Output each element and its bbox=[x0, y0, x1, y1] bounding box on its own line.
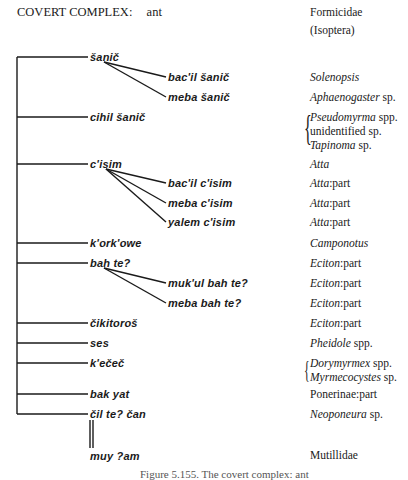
gloss-bah-te: Eciton:part bbox=[310, 258, 361, 270]
term-meba-sanic: meba šanič bbox=[168, 92, 230, 103]
term-meba-cisim: meba c'isim bbox=[168, 198, 233, 209]
gloss-cihil-3: Tapinoma sp. bbox=[310, 140, 372, 152]
term-bah-te: bah te? bbox=[90, 258, 131, 269]
gloss-muy-am: Mutillidae bbox=[310, 450, 358, 462]
gloss-mukul-bah-te: Eciton:part bbox=[310, 278, 361, 290]
term-mukul-bah-te: muk'ul bah te? bbox=[168, 278, 248, 289]
term-cihil-sanic: cihil šanič bbox=[90, 112, 145, 123]
gloss-kecec-1: Dorymyrmex spp. bbox=[310, 358, 392, 370]
term-ses: ses bbox=[90, 338, 109, 349]
gloss-meba-cisim: Atta:part bbox=[310, 198, 350, 210]
term-bacil-sanic: bac'il šanič bbox=[168, 72, 229, 83]
term-yalem-cisim: yalem c'isim bbox=[168, 217, 235, 228]
brace-kecec: { bbox=[304, 357, 310, 383]
term-cisim: c'isim bbox=[90, 159, 122, 170]
term-cil-te-can: čil te? čan bbox=[90, 409, 146, 420]
term-bak-yat: bak yat bbox=[90, 389, 129, 400]
gloss-meba-bah-te: Eciton:part bbox=[310, 298, 361, 310]
term-korkowe: k'ork'owe bbox=[90, 238, 142, 249]
gloss-cisim: Atta bbox=[310, 159, 329, 171]
gloss-cikitoros: Eciton:part bbox=[310, 318, 361, 330]
term-bacil-cisim: bac'il c'isim bbox=[168, 178, 232, 189]
gloss-bacil-sanic: Solenopsis bbox=[310, 72, 359, 84]
term-cikitoros: čikitoroš bbox=[90, 318, 138, 329]
gloss-cihil-2: unidentified sp. bbox=[310, 126, 382, 138]
gloss-meba-sanic: Aphaenogaster sp. bbox=[310, 92, 396, 104]
term-kecec: k'ečeč bbox=[90, 358, 124, 369]
figure-caption: Figure 5.155. The covert complex: ant bbox=[140, 469, 309, 480]
gloss-korkowe: Camponotus bbox=[310, 238, 368, 250]
gloss-kecec-2: Myrmecocystes sp. bbox=[310, 372, 397, 384]
gloss-yalem-cisim: Atta:part bbox=[310, 217, 350, 229]
gloss-bacil-cisim: Atta:part bbox=[310, 178, 350, 190]
gloss-cihil-1: Pseudomyrma spp. bbox=[310, 112, 398, 124]
gloss-ses: Pheidole spp. bbox=[310, 338, 373, 350]
gloss-bak-yat: Ponerinae:part bbox=[310, 389, 377, 401]
term-sanic: šanič bbox=[90, 52, 119, 63]
term-meba-bah-te: meba bah te? bbox=[168, 298, 241, 309]
term-muy-am: muy ?am bbox=[90, 451, 140, 462]
gloss-cil-te-can: Neoponeura sp. bbox=[310, 409, 383, 421]
